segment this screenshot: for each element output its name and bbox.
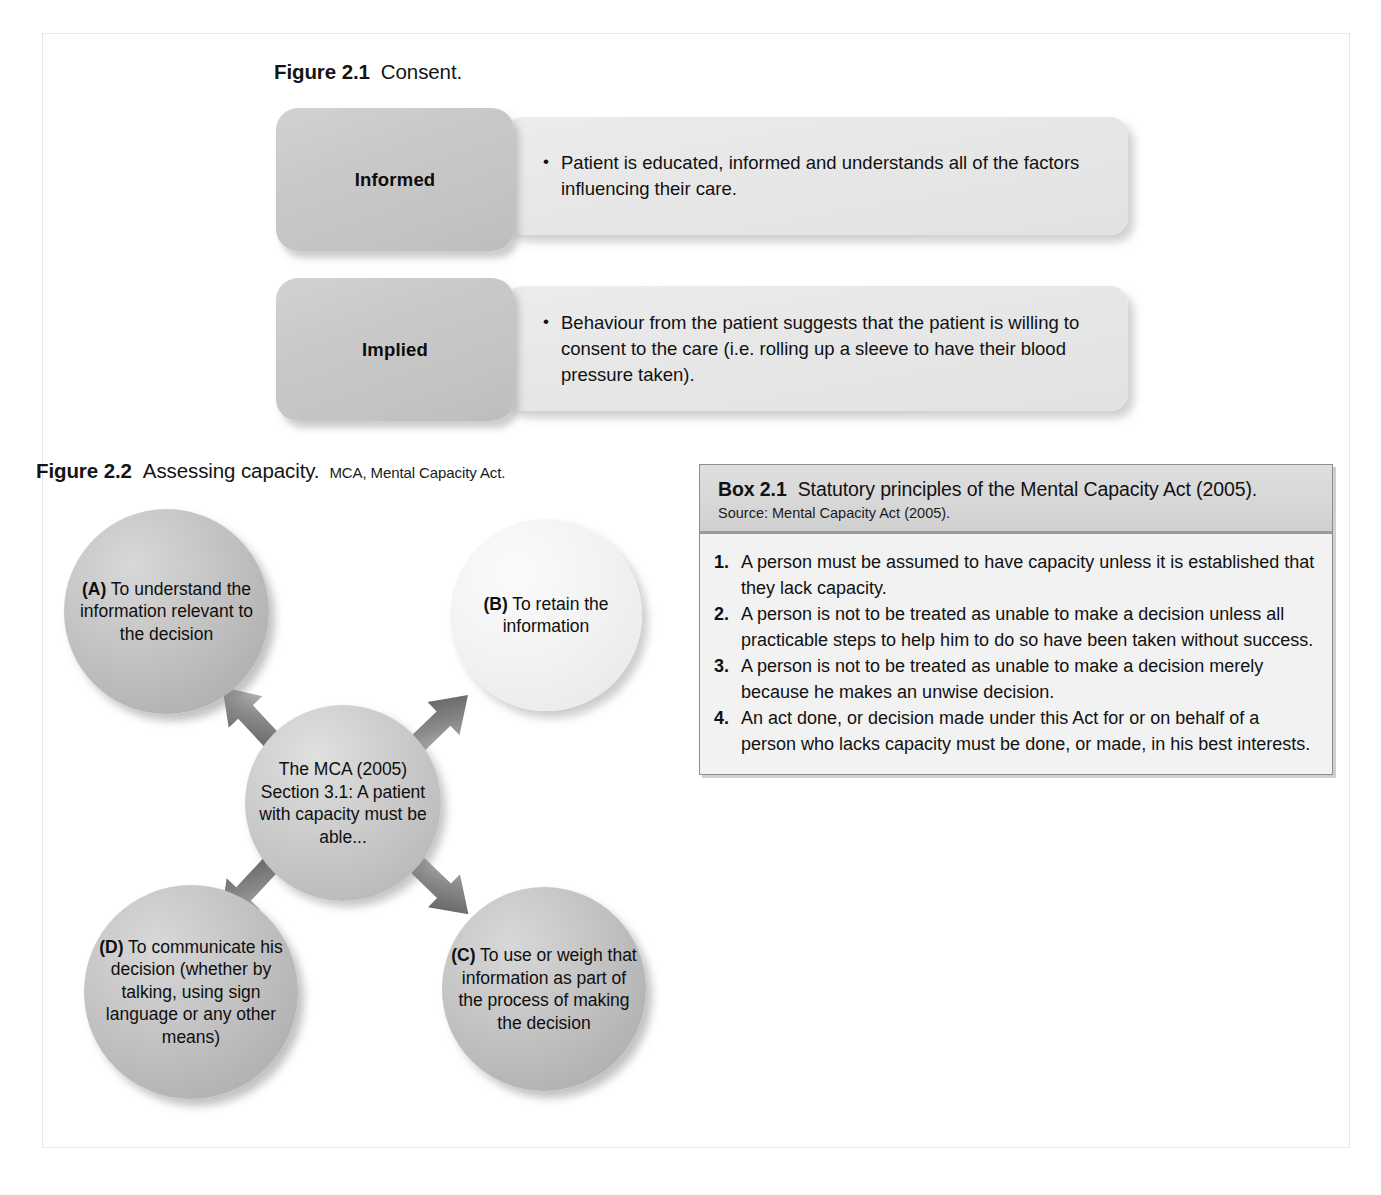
list-item: An act done, or decision made under this…	[714, 706, 1316, 757]
box-2-1-body: A person must be assumed to have capacit…	[700, 534, 1332, 774]
figure-2-1-caption: Figure 2.1Consent.	[274, 60, 462, 84]
capacity-node-c-body: To use or weigh that information as part…	[458, 945, 636, 1033]
list-item: A person is not to be treated as unable …	[714, 654, 1316, 705]
capacity-node-c-text: (C) To use or weigh that information as …	[442, 944, 646, 1034]
consent-description-informed: Patient is educated, informed and unders…	[505, 117, 1128, 235]
capacity-node-d-text: (D) To communicate his decision (whether…	[84, 936, 298, 1049]
capacity-node-d-marker: (D)	[99, 937, 123, 957]
assessing-capacity-diagram: (A) To understand the information releva…	[36, 490, 696, 1130]
capacity-node-a-body: To understand the information relevant t…	[80, 579, 253, 644]
capacity-node-b-text: (B) To retain the information	[450, 593, 642, 638]
box-2-1-title-text: Statutory principles of the Mental Capac…	[798, 478, 1257, 500]
figure-2-1-number: Figure 2.1	[274, 60, 370, 83]
list-item: Patient is educated, informed and unders…	[561, 150, 1102, 202]
capacity-node-c: (C) To use or weigh that information as …	[442, 887, 646, 1091]
capacity-node-c-marker: (C)	[451, 945, 475, 965]
figure-2-2-number: Figure 2.2	[36, 459, 132, 482]
list-item: Behaviour from the patient suggests that…	[561, 310, 1102, 388]
capacity-node-b: (B) To retain the information	[450, 519, 642, 711]
figure-2-2-title: Assessing capacity.	[143, 459, 320, 482]
consent-type-label-implied: Implied	[276, 278, 514, 421]
box-2-1: Box 2.1Statutory principles of the Menta…	[699, 464, 1333, 775]
capacity-node-center-text: The MCA (2005) Section 3.1: A patient wi…	[245, 758, 441, 848]
list-item: A person must be assumed to have capacit…	[714, 550, 1316, 601]
capacity-node-center: The MCA (2005) Section 3.1: A patient wi…	[245, 705, 441, 901]
consent-type-label-informed: Informed	[276, 108, 514, 251]
box-2-1-source: Source: Mental Capacity Act (2005).	[718, 505, 1314, 521]
figure-2-2-abbreviation: MCA, Mental Capacity Act.	[329, 464, 505, 481]
capacity-node-a-marker: (A)	[82, 579, 106, 599]
consent-description-informed-list: Patient is educated, informed and unders…	[505, 150, 1128, 202]
capacity-node-d: (D) To communicate his decision (whether…	[84, 885, 298, 1099]
figure-2-2-caption: Figure 2.2Assessing capacity.MCA, Mental…	[36, 459, 505, 483]
capacity-node-b-body: To retain the information	[503, 594, 609, 637]
capacity-node-b-marker: (B)	[483, 594, 507, 614]
box-2-1-principles-list: A person must be assumed to have capacit…	[714, 550, 1316, 757]
consent-type-label-informed-text: Informed	[355, 169, 436, 191]
capacity-node-d-body: To communicate his decision (whether by …	[106, 937, 283, 1047]
consent-description-implied-list: Behaviour from the patient suggests that…	[505, 310, 1128, 388]
box-2-1-number: Box 2.1	[718, 478, 787, 500]
list-item: A person is not to be treated as unable …	[714, 602, 1316, 653]
figure-2-1-title: Consent.	[381, 60, 462, 83]
box-2-1-title: Box 2.1Statutory principles of the Menta…	[718, 478, 1314, 501]
capacity-node-a-text: (A) To understand the information releva…	[64, 578, 269, 646]
box-2-1-header: Box 2.1Statutory principles of the Menta…	[700, 465, 1332, 534]
consent-type-label-implied-text: Implied	[362, 339, 428, 361]
capacity-node-a: (A) To understand the information releva…	[64, 509, 269, 714]
consent-description-implied: Behaviour from the patient suggests that…	[505, 286, 1128, 411]
